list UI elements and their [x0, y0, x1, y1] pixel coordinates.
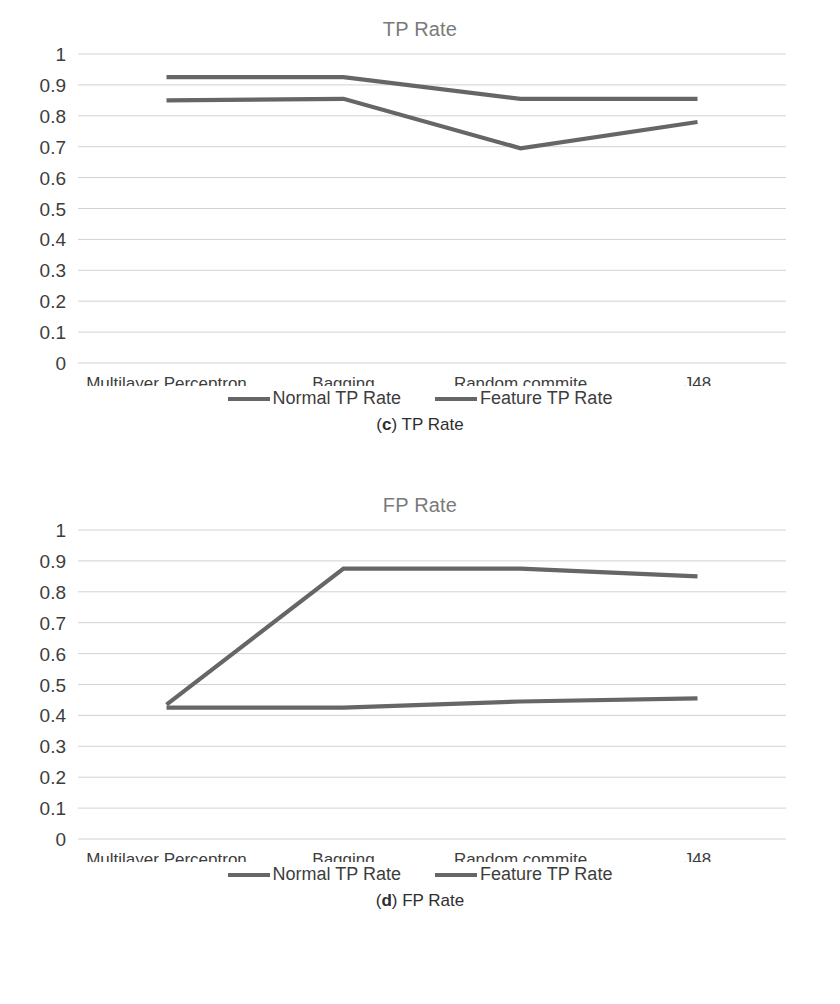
y-axis-tick-label: 0.8 [40, 106, 66, 127]
y-axis-tick-label: 0.2 [40, 291, 66, 312]
y-axis-tick-label: 0.3 [40, 736, 66, 757]
x-axis-category-label: J48 [684, 850, 711, 862]
series-line-feature-tp-rate [167, 77, 698, 99]
y-axis-tick-label: 0.5 [40, 199, 66, 220]
legend-swatch-icon [435, 397, 477, 401]
x-axis-category-label: Random commite [454, 850, 587, 862]
legend-item-feature-tp[interactable]: Feature TP Rate [435, 388, 612, 409]
y-axis-tick-label: 1 [55, 520, 66, 541]
y-axis-tick-label: 0 [55, 353, 66, 374]
line-chart-fp: 00.10.20.30.40.50.60.70.80.91Multilayer … [0, 517, 840, 862]
plot-area-tp: 00.10.20.30.40.50.60.70.80.91Multilayer … [0, 41, 840, 386]
x-axis-category-label: Multilayer Perceptron [86, 850, 247, 862]
legend-fp: Normal TP Rate Feature TP Rate [0, 864, 840, 885]
caption-text-d: ) FP Rate [392, 891, 464, 910]
y-axis-tick-label: 0.4 [40, 705, 67, 726]
y-axis-tick-label: 0.8 [40, 582, 66, 603]
x-axis-category-label: Bagging [312, 374, 374, 386]
legend-swatch-icon [435, 873, 477, 877]
figure-tp-rate: TP Rate 00.10.20.30.40.50.60.70.80.91Mul… [0, 0, 840, 500]
legend-item-normal-tp[interactable]: Normal TP Rate [228, 388, 401, 409]
x-axis-category-label: Multilayer Perceptron [86, 374, 247, 386]
x-axis-category-label: Random commite [454, 374, 587, 386]
y-axis-tick-label: 1 [55, 44, 66, 65]
chart-title-tp: TP Rate [0, 0, 840, 41]
y-axis-tick-label: 0 [55, 829, 66, 850]
figure-caption-d: (d) FP Rate [0, 891, 840, 911]
legend-label-feature-fp: Feature TP Rate [480, 864, 612, 885]
y-axis-tick-label: 0.6 [40, 644, 66, 665]
chart-title-fp: FP Rate [0, 484, 840, 517]
y-axis-tick-label: 0.6 [40, 168, 66, 189]
caption-tag-d: d [381, 891, 391, 910]
y-axis-tick-label: 0.9 [40, 551, 66, 572]
y-axis-tick-label: 0.9 [40, 75, 66, 96]
legend-label-normal-fp: Normal TP Rate [273, 864, 401, 885]
x-axis-category-label: Bagging [312, 850, 374, 862]
figure-fp-rate: FP Rate 00.10.20.30.40.50.60.70.80.91Mul… [0, 484, 840, 1004]
legend-swatch-icon [228, 397, 270, 401]
y-axis-tick-label: 0.1 [40, 798, 66, 819]
y-axis-tick-label: 0.4 [40, 229, 67, 250]
x-axis-category-label: J48 [684, 374, 711, 386]
series-line-normal-tp-rate [167, 99, 698, 148]
legend-swatch-icon [228, 873, 270, 877]
legend-item-normal-fp[interactable]: Normal TP Rate [228, 864, 401, 885]
legend-label-normal-tp: Normal TP Rate [273, 388, 401, 409]
caption-text-c: ) TP Rate [392, 415, 464, 434]
y-axis-tick-label: 0.5 [40, 675, 66, 696]
figure-caption-c: (c) TP Rate [0, 415, 840, 435]
y-axis-tick-label: 0.3 [40, 260, 66, 281]
legend-label-feature-tp: Feature TP Rate [480, 388, 612, 409]
line-chart-tp: 00.10.20.30.40.50.60.70.80.91Multilayer … [0, 41, 840, 386]
series-line-feature-tp-rate [167, 698, 698, 707]
caption-tag-c: c [382, 415, 391, 434]
legend-tp: Normal TP Rate Feature TP Rate [0, 388, 840, 409]
legend-item-feature-fp[interactable]: Feature TP Rate [435, 864, 612, 885]
y-axis-tick-label: 0.2 [40, 767, 66, 788]
y-axis-tick-label: 0.7 [40, 137, 66, 158]
y-axis-tick-label: 0.1 [40, 322, 66, 343]
plot-area-fp: 00.10.20.30.40.50.60.70.80.91Multilayer … [0, 517, 840, 862]
y-axis-tick-label: 0.7 [40, 613, 66, 634]
